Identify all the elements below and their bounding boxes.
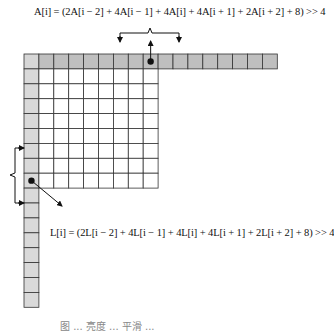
block-pixel-cell [99,143,114,158]
block-pixel-cell [128,99,143,114]
block-pixel-cell [84,173,99,188]
block-pixel-cell [54,69,69,84]
left-reference-cell [24,69,39,84]
left-reference-cell [24,188,39,203]
left-reference-cell [24,292,39,307]
left-reference-cell [24,158,39,173]
top-reference-cell [233,54,248,69]
block-pixel-cell [143,173,158,188]
block-pixel-cell [39,158,54,173]
block-pixel-cell [99,84,114,99]
corner-reference-cell [24,54,39,69]
block-pixel-cell [99,173,114,188]
top-reference-cell [158,54,173,69]
left-reference-cell [24,203,39,218]
block-pixel-cell [54,143,69,158]
left-reference-cell [24,114,39,129]
block-pixel-cell [39,99,54,114]
block-pixel-cell [69,99,84,114]
top-reference-cell [218,54,233,69]
top-reference-cell [262,54,277,69]
block-pixel-cell [143,114,158,129]
top-reference-cell [69,54,84,69]
left-reference-cell [24,248,39,263]
block-pixel-cell [39,129,54,144]
block-pixel-cell [69,173,84,188]
block-pixel-cell [113,129,128,144]
block-pixel-cell [69,84,84,99]
block-pixel-cell [84,158,99,173]
left-reference-cell [24,218,39,233]
block-pixel-cell [54,84,69,99]
block-pixel-cell [39,173,54,188]
top-reference-cell [113,54,128,69]
block-pixel-cell [99,99,114,114]
block-pixel-cell [39,84,54,99]
block-pixel-cell [84,99,99,114]
block-pixel-cell [99,114,114,129]
block-pixel-cell [128,114,143,129]
top-reference-cell [54,54,69,69]
block-pixel-cell [99,129,114,144]
block-pixel-cell [128,143,143,158]
top-reference-cell [203,54,218,69]
top-reference-cell [128,54,143,69]
block-pixel-cell [128,129,143,144]
left-reference-cell [24,233,39,248]
block-pixel-cell [69,129,84,144]
block-pixel-cell [69,158,84,173]
top-reference-cell [188,54,203,69]
left-reference-cell [24,84,39,99]
top-reference-cell [99,54,114,69]
left-reference-cell [24,278,39,293]
block-pixel-cell [128,158,143,173]
block-pixel-cell [54,129,69,144]
block-pixel-cell [84,114,99,129]
top-reference-cell [39,54,54,69]
block-pixel-cell [113,69,128,84]
block-pixel-cell [39,69,54,84]
top-reference-cell [248,54,263,69]
block-pixel-cell [69,114,84,129]
block-pixel-cell [69,69,84,84]
block-pixel-cell [113,84,128,99]
block-pixel-cell [39,143,54,158]
top-reference-cell [84,54,99,69]
block-pixel-cell [39,114,54,129]
block-pixel-cell [143,158,158,173]
block-pixel-cell [84,129,99,144]
block-pixel-cell [69,143,84,158]
block-pixel-cell [143,99,158,114]
left-brace [10,148,23,203]
left-reference-formula: L[i] = (2L[i − 2] + 4L[i − 1] + 4L[i] + … [50,227,334,238]
top-reference-cell [173,54,188,69]
block-pixel-cell [99,69,114,84]
block-pixel-cell [128,173,143,188]
left-reference-cell [24,129,39,144]
block-pixel-cell [99,158,114,173]
block-pixel-cell [128,69,143,84]
left-reference-cell [24,143,39,158]
block-pixel-cell [54,173,69,188]
block-pixel-cell [128,84,143,99]
block-pixel-cell [143,143,158,158]
left-reference-cell [24,99,39,114]
block-pixel-cell [54,114,69,129]
block-pixel-cell [143,69,158,84]
block-pixel-cell [113,143,128,158]
block-pixel-cell [143,129,158,144]
block-pixel-cell [113,99,128,114]
block-pixel-cell [54,158,69,173]
block-pixel-cell [54,99,69,114]
block-pixel-cell [113,173,128,188]
figure-caption: 图 ... 亮度 ... 平滑 ... [60,318,155,333]
block-pixel-cell [84,84,99,99]
top-brace [120,28,179,41]
block-pixel-cell [84,69,99,84]
block-pixel-cell [84,143,99,158]
left-reference-cell [24,263,39,278]
block-pixel-cell [113,158,128,173]
block-pixel-cell [143,84,158,99]
block-pixel-cell [113,114,128,129]
